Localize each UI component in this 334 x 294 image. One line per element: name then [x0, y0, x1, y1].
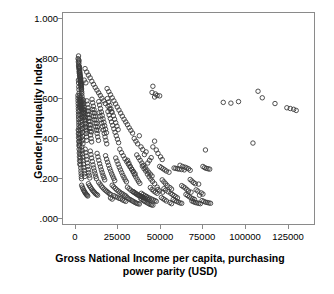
y-tick-label-1000: 1.000	[16, 13, 58, 24]
x-tick-label-25000: 25000	[104, 231, 130, 242]
y-tick-label-000: .000	[16, 213, 58, 224]
y-tick-label-400: .400	[16, 133, 58, 144]
x-tick-label-0: 0	[72, 231, 77, 242]
x-tick-label-100000: 100000	[229, 231, 261, 242]
x-tick-label-50000: 50000	[147, 231, 173, 242]
x-tick-mark	[117, 225, 118, 229]
x-tick-mark	[288, 225, 289, 229]
x-tick-label-125000: 125000	[272, 231, 304, 242]
x-tick-mark	[245, 225, 246, 229]
y-tick-label-600: .600	[16, 93, 58, 104]
scatter-points-layer	[63, 13, 314, 224]
x-tick-mark	[160, 225, 161, 229]
plot-area	[62, 12, 315, 225]
x-axis-title-line1: Gross National Income per capita, purcha…	[20, 252, 320, 265]
x-tick-mark	[75, 225, 76, 229]
x-tick-mark	[202, 225, 203, 229]
scatter-plot-figure: Gender Inequality Index 1.000 .800 .600 …	[0, 0, 334, 294]
x-axis-title: Gross National Income per capita, purcha…	[20, 252, 320, 278]
x-axis-title-line2: power parity (USD)	[20, 265, 320, 278]
y-axis-tick-labels: 1.000 .800 .600 .400 .200 .000	[11, 0, 58, 294]
y-tick-label-800: .800	[16, 53, 58, 64]
x-tick-label-75000: 75000	[189, 231, 215, 242]
y-tick-label-200: .200	[16, 173, 58, 184]
